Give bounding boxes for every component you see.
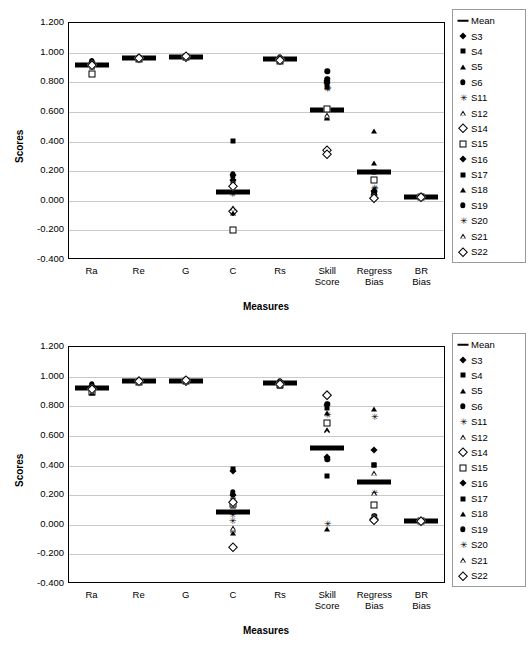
legend-marker [456,523,470,536]
legend-item-mean[interactable]: Mean [456,13,521,28]
legend-item-s22[interactable]: S22 [456,568,521,583]
legend-item-s15[interactable]: S15 [456,460,521,475]
marker-odiamond-icon [458,571,467,580]
marker-fdiamond-icon [459,33,466,40]
marker-ftriangle-icon [230,211,236,216]
legend-item-s16[interactable]: S16 [456,152,521,167]
legend-item-s20[interactable]: ✳S20 [456,537,521,552]
y-axis-tick-label: -0.200 [37,548,64,558]
legend-marker [456,354,470,367]
legend-item-s19[interactable]: S19 [456,522,521,537]
marker-ftriangle-icon [371,161,377,166]
marker-fcircle-icon [460,203,465,208]
x-axis-tick-label: SkillScore [304,589,351,611]
legend-item-s16[interactable]: S16 [456,476,521,491]
legend-item-s21[interactable]: S21 [456,228,521,243]
marker-fsquare-icon [461,496,466,501]
legend-marker [456,230,470,243]
x-axis-tick-label: C [209,265,256,276]
legend-label: S3 [471,31,483,42]
x-axis-tick-label: BRBias [398,589,445,611]
marker-osquare-icon [324,420,331,427]
marker-osquare-icon [229,227,236,234]
legend-marker [456,338,470,351]
marker-star-icon: ✳ [229,190,236,197]
marker-fdiamond-icon [459,156,466,163]
legend-item-s18[interactable]: S18 [456,506,521,521]
marker-osquare-icon [460,140,467,147]
chart-figure-bottom: 1.2001.0000.8000.6000.4000.2000.000-0.20… [0,324,532,649]
legend-item-s12[interactable]: S12 [456,105,521,120]
legend-item-s14[interactable]: S14 [456,445,521,460]
marker-star-icon: ✳ [460,418,467,425]
legend-item-s17[interactable]: S17 [456,491,521,506]
marker-otriangle-icon [371,491,377,496]
gridline [69,495,444,496]
legend-label: S12 [471,432,488,443]
legend-marker [456,446,470,459]
y-axis-title: Scores [14,129,25,162]
legend-item-s4[interactable]: S4 [456,44,521,59]
legend-item-s19[interactable]: S19 [456,198,521,213]
marker-ftriangle-icon [460,388,466,393]
marker-osquare-icon [460,464,467,471]
legend-item-s4[interactable]: S4 [456,368,521,383]
marker-ftriangle-icon [230,530,236,535]
legend-label: Mean [471,339,495,350]
legend-marker [456,369,470,382]
legend-item-s3[interactable]: S3 [456,352,521,367]
legend-marker [456,400,470,413]
legend-marker: ✳ [456,415,470,428]
x-axis-tick-label: RegressBias [351,265,398,287]
legend-marker: ✳ [456,538,470,551]
x-axis-tick-label: G [162,589,209,600]
legend-marker [456,30,470,43]
legend-item-s17[interactable]: S17 [456,167,521,182]
legend-item-s11[interactable]: ✳S11 [456,414,521,429]
legend-item-s6[interactable]: S6 [456,399,521,414]
marker-odiamond-icon [458,247,467,256]
legend-item-s18[interactable]: S18 [456,182,521,197]
y-axis-tick-label: 0.400 [40,460,64,470]
legend-label: S5 [471,61,483,72]
legend-item-s11[interactable]: ✳S11 [456,90,521,105]
marker-star-icon: ✳ [371,184,378,191]
legend-item-s5[interactable]: S5 [456,59,521,74]
x-axis-tick-label: Ra [68,265,115,276]
y-axis-tick-label: -0.400 [37,254,64,264]
legend-label: S12 [471,108,488,119]
legend-marker [456,507,470,520]
legend-item-mean[interactable]: Mean [456,337,521,352]
y-axis-tick-label: 0.400 [40,136,64,146]
legend-marker [456,384,470,397]
legend-label: S19 [471,200,488,211]
marker-otriangle-icon [460,111,466,116]
mean-bar [357,479,391,484]
legend-item-s5[interactable]: S5 [456,383,521,398]
legend-label: S6 [471,77,483,88]
marker-odiamond-icon [458,448,467,457]
legend-item-s12[interactable]: S12 [456,429,521,444]
legend-marker [456,554,470,567]
legend-item-s21[interactable]: S21 [456,552,521,567]
marker-fsquare-icon [372,169,377,174]
legend-item-s22[interactable]: S22 [456,244,521,259]
legend-item-s3[interactable]: S3 [456,28,521,43]
legend-marker [456,431,470,444]
y-axis-tick-label: 1.200 [40,341,64,351]
legend-label: S14 [471,123,488,134]
legend-label: S20 [471,539,488,550]
y-axis-tick-label: 1.000 [40,47,64,57]
marker-fsquare-icon [372,463,377,468]
legend-item-s6[interactable]: S6 [456,75,521,90]
legend-item-s20[interactable]: ✳S20 [456,213,521,228]
legend-marker [456,461,470,474]
gridline [69,230,444,231]
legend-item-s14[interactable]: S14 [456,121,521,136]
legend-label: S5 [471,385,483,396]
marker-ftriangle-icon [460,511,466,516]
marker-osquare-icon [88,71,95,78]
legend-item-s15[interactable]: S15 [456,136,521,151]
y-axis-tick-label: 0.800 [40,400,64,410]
legend-marker [456,183,470,196]
